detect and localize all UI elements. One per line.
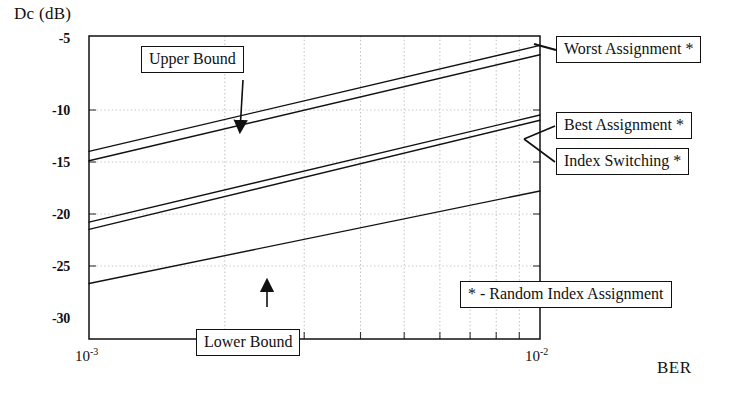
figure-canvas: Dc (dB) BER -5 -10 -15 -20 -25 -30 10-3 … [0,0,753,397]
callout-index-switching[interactable]: Index Switching * [556,148,689,175]
data-lines [89,45,540,283]
callout-best-assignment[interactable]: Best Assignment * [556,112,692,139]
upper-bound-leader [240,80,243,131]
line-best-assignment [89,115,540,222]
callout-footnote: * - Random Index Assignment [460,281,672,308]
line-index-switching [89,120,540,229]
callout-upper-bound[interactable]: Upper Bound [141,46,244,73]
callout-worst-assignment[interactable]: Worst Assignment * [556,36,701,63]
callout-lower-bound[interactable]: Lower Bound [196,329,300,356]
worst-assignment-leader [534,44,556,50]
line-lower-bound [89,191,540,284]
grid-horizontal [89,110,540,266]
